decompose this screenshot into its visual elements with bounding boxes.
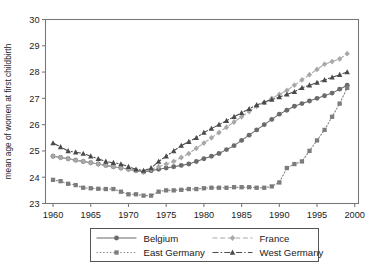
data-point-marker — [277, 112, 282, 117]
data-point-marker — [65, 148, 70, 153]
data-point-marker — [171, 159, 176, 165]
data-point-marker — [239, 138, 244, 143]
data-point-marker — [179, 143, 184, 148]
data-point-marker — [314, 67, 319, 73]
data-point-marker — [209, 186, 213, 190]
data-point-marker — [194, 159, 199, 164]
data-point-marker — [126, 192, 130, 196]
data-point-marker — [66, 182, 70, 186]
data-point-marker — [337, 101, 341, 105]
data-point-marker — [179, 188, 183, 192]
data-point-marker — [179, 155, 184, 161]
legend-label: West Germany — [260, 247, 324, 258]
data-point-marker — [217, 151, 222, 156]
data-point-marker — [224, 147, 229, 152]
data-point-marker — [81, 159, 86, 165]
data-point-marker — [74, 183, 78, 187]
chart-figure: 2324252627282930196019651970197519801985… — [0, 0, 371, 266]
data-point-marker — [345, 51, 350, 57]
data-point-marker — [81, 186, 85, 190]
data-point-marker — [284, 108, 289, 113]
data-point-marker — [315, 138, 319, 142]
data-point-marker — [209, 154, 214, 159]
data-point-marker — [156, 159, 161, 164]
data-point-marker — [73, 157, 78, 163]
y-tick-label: 25 — [29, 146, 39, 156]
data-point-marker — [300, 159, 304, 163]
data-point-marker — [255, 186, 259, 190]
data-point-marker — [194, 145, 199, 151]
data-point-marker — [322, 93, 327, 98]
data-point-marker — [114, 236, 119, 241]
legend-label: Belgium — [144, 233, 179, 244]
data-point-marker — [118, 161, 123, 166]
line-chart: 2324252627282930196019651970197519801985… — [0, 0, 371, 266]
data-point-marker — [262, 186, 266, 190]
data-point-marker — [270, 184, 274, 188]
data-point-marker — [330, 91, 335, 96]
data-point-marker — [66, 156, 71, 162]
data-point-marker — [322, 61, 327, 67]
y-tick-label: 30 — [29, 15, 39, 25]
data-point-marker — [96, 187, 100, 191]
data-point-marker — [201, 140, 206, 146]
data-point-marker — [292, 104, 297, 109]
legend-label: East Germany — [144, 247, 206, 258]
data-point-marker — [58, 144, 63, 149]
plot-frame — [46, 20, 359, 204]
data-point-marker — [50, 140, 55, 145]
data-point-marker — [232, 185, 236, 189]
series-line — [53, 54, 347, 172]
data-point-marker — [224, 118, 229, 123]
data-point-marker — [209, 135, 214, 141]
data-point-marker — [285, 166, 289, 170]
data-point-marker — [194, 135, 199, 140]
data-point-marker — [224, 124, 229, 130]
data-point-marker — [81, 151, 86, 156]
data-point-marker — [299, 77, 304, 83]
y-tick-label: 26 — [29, 120, 39, 130]
y-tick-label: 24 — [29, 173, 39, 183]
data-point-marker — [277, 180, 281, 184]
y-tick-label: 29 — [29, 41, 39, 51]
data-point-marker — [73, 149, 78, 154]
x-tick-label: 1980 — [194, 210, 214, 220]
data-point-marker — [194, 187, 198, 191]
data-point-marker — [171, 148, 176, 153]
y-tick-label: 23 — [29, 199, 39, 209]
data-point-marker — [104, 187, 108, 191]
data-point-marker — [292, 89, 297, 94]
data-point-marker — [164, 161, 169, 167]
y-axis-title: mean age of women at first childbirth — [3, 43, 13, 179]
data-point-marker — [299, 101, 304, 106]
data-point-marker — [201, 156, 206, 161]
data-point-marker — [114, 250, 118, 254]
data-point-marker — [141, 193, 145, 197]
data-point-marker — [172, 188, 176, 192]
data-point-marker — [337, 56, 342, 62]
data-point-marker — [216, 122, 221, 127]
data-point-marker — [111, 187, 115, 191]
data-point-marker — [307, 99, 312, 104]
y-tick-label: 27 — [29, 94, 39, 104]
data-point-marker — [322, 128, 326, 132]
data-point-marker — [89, 186, 93, 190]
data-point-marker — [50, 153, 55, 159]
x-tick-label: 1990 — [269, 210, 289, 220]
data-point-marker — [315, 96, 320, 101]
data-point-marker — [292, 162, 296, 166]
data-point-marker — [344, 69, 349, 74]
data-point-marker — [231, 119, 236, 125]
data-point-marker — [337, 87, 342, 92]
legend-label: France — [260, 233, 290, 244]
data-point-marker — [187, 187, 191, 191]
data-point-marker — [239, 185, 243, 189]
data-point-marker — [269, 117, 274, 122]
data-point-marker — [292, 82, 297, 88]
data-point-marker — [209, 126, 214, 131]
data-point-marker — [239, 110, 244, 115]
data-point-marker — [202, 186, 206, 190]
data-point-marker — [307, 72, 312, 78]
data-point-marker — [330, 59, 335, 65]
data-point-marker — [88, 160, 93, 166]
